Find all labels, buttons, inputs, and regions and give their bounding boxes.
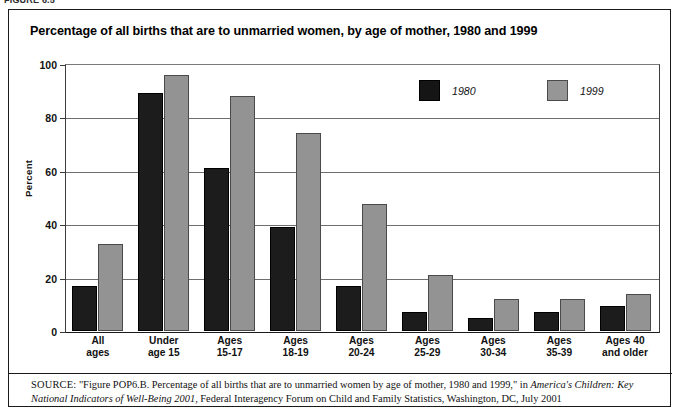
- bar-group: [460, 64, 526, 331]
- bar-1999-all-ages: [98, 244, 123, 331]
- x-category-label: Ages35-39: [526, 335, 592, 360]
- y-tick-label-60: 60: [45, 166, 57, 178]
- bar-group: [592, 64, 658, 331]
- source-text-lead: "Figure POP6.B. Percentage of all births…: [76, 379, 530, 390]
- y-tick-label-100: 100: [39, 59, 57, 71]
- legend-swatch-1980: [419, 80, 440, 101]
- x-category-label-line: 18-19: [263, 347, 329, 359]
- legend-entry-1999: 1999: [547, 80, 604, 101]
- bar-group: [131, 64, 197, 331]
- legend-swatch-1999: [547, 80, 568, 101]
- legend-entry-1980: 1980: [419, 80, 476, 101]
- y-axis-title: Percent: [23, 160, 34, 197]
- source-label: SOURCE:: [31, 379, 76, 390]
- x-category-label: Ages18-19: [263, 335, 329, 360]
- bar-group: [263, 64, 329, 331]
- x-category-label: Ages20-24: [329, 335, 395, 360]
- bar-1980-ages-40-and-older: [600, 306, 625, 331]
- x-category-label-line: Ages: [460, 335, 526, 347]
- y-tick-label-40: 40: [45, 219, 57, 231]
- x-category-label: Ages25-29: [394, 335, 460, 360]
- figure-caption-strip: FIGURE 6.5: [0, 0, 680, 9]
- x-category-label-line: Ages: [329, 335, 395, 347]
- source-note: SOURCE: "Figure POP6.B. Percentage of al…: [31, 378, 653, 405]
- bar-1980-under-age-15: [138, 93, 163, 331]
- x-category-label-line: 30-34: [460, 347, 526, 359]
- x-category-label-line: 20-24: [329, 347, 395, 359]
- x-category-label-line: Ages: [197, 335, 263, 347]
- bar-1980-ages-30-34: [468, 318, 493, 331]
- bar-group: [526, 64, 592, 331]
- figure-label: FIGURE 6.5: [4, 0, 55, 5]
- y-tick-label-0: 0: [51, 326, 57, 338]
- x-category-label-line: Ages: [526, 335, 592, 347]
- source-divider: [9, 373, 672, 374]
- x-category-label: Ages 40and older: [592, 335, 658, 360]
- x-category-label: Allages: [65, 335, 131, 360]
- bar-1999-ages-30-34: [494, 299, 519, 331]
- bar-1980-ages-25-29: [402, 312, 427, 331]
- source-text-tail: , Federal Interagency Forum on Child and…: [195, 393, 562, 404]
- x-category-label: Ages30-34: [460, 335, 526, 360]
- bar-1980-ages-20-24: [336, 286, 361, 331]
- y-tick-mark-0: [60, 332, 66, 333]
- bar-1980-ages-18-19: [270, 227, 295, 331]
- bar-group: [65, 64, 131, 331]
- x-category-label-line: 25-29: [394, 347, 460, 359]
- x-category-label-line: Under: [131, 335, 197, 347]
- x-category-label-line: Ages: [263, 335, 329, 347]
- x-category-label-line: 15-17: [197, 347, 263, 359]
- bar-1999-ages-15-17: [230, 96, 255, 331]
- x-category-label-line: and older: [592, 347, 658, 359]
- bar-1980-ages-15-17: [204, 168, 229, 331]
- x-category-label-line: Ages 40: [592, 335, 658, 347]
- x-category-label-line: 35-39: [526, 347, 592, 359]
- x-category-label-line: age 15: [131, 347, 197, 359]
- bar-1980-all-ages: [72, 286, 97, 331]
- bars-layer: [65, 64, 658, 331]
- y-tick-label-80: 80: [45, 112, 57, 124]
- chart-plot-wrapper: Percent 020406080100 AllagesUnderage 15A…: [9, 10, 672, 408]
- bar-1980-ages-35-39: [534, 312, 559, 331]
- x-category-label: Ages15-17: [197, 335, 263, 360]
- bar-1999-ages-25-29: [428, 275, 453, 331]
- bar-group: [329, 64, 395, 331]
- x-category-label-line: Ages: [394, 335, 460, 347]
- y-tick-label-20: 20: [45, 273, 57, 285]
- bar-group: [197, 64, 263, 331]
- bar-1999-ages-18-19: [296, 133, 321, 331]
- x-axis-labels: AllagesUnderage 15Ages15-17Ages18-19Ages…: [65, 335, 658, 369]
- x-category-label-line: ages: [65, 347, 131, 359]
- legend-label-1999: 1999: [580, 85, 604, 97]
- bar-1999-under-age-15: [164, 75, 189, 331]
- x-category-label-line: All: [65, 335, 131, 347]
- bar-1999-ages-40-and-older: [626, 294, 651, 331]
- bar-group: [394, 64, 460, 331]
- x-category-label: Underage 15: [131, 335, 197, 360]
- bar-1999-ages-35-39: [560, 299, 585, 331]
- legend-label-1980: 1980: [452, 85, 476, 97]
- figure-frame: Percentage of all births that are to unm…: [8, 9, 671, 407]
- bar-1999-ages-20-24: [362, 204, 387, 331]
